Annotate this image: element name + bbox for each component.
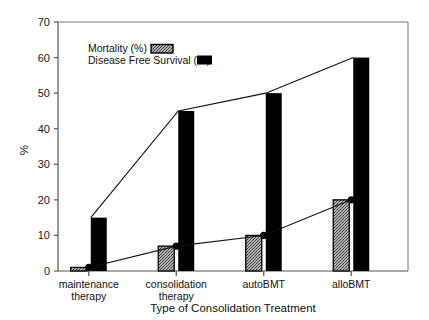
x-tick-label: autoBMT: [242, 278, 285, 290]
marker-mortality: [85, 264, 92, 271]
bar-disease-free-survival: [266, 93, 282, 271]
x-tick-label: therapy: [71, 290, 107, 302]
bar-disease-free-survival: [178, 111, 194, 271]
marker-mortality: [173, 243, 180, 250]
bar-disease-free-survival: [91, 218, 107, 271]
y-tick-label: 10: [38, 229, 50, 241]
bar-disease-free-survival: [353, 58, 369, 271]
x-tick-label: consolidation: [146, 278, 207, 290]
chart-canvas: 010203040506070 maintenancetherapyconsol…: [0, 0, 429, 320]
y-tick-label: 50: [38, 87, 50, 99]
x-tick-label: maintenance: [59, 278, 119, 290]
bar-mortality: [246, 235, 262, 271]
y-tick-label: 70: [38, 16, 50, 28]
bar-mortality: [71, 267, 87, 271]
legend-swatch-mortality: [151, 45, 173, 54]
x-tick-label: therapy: [159, 290, 195, 302]
legend-label-disease-free-survival: Disease Free Survival (%): [88, 54, 210, 66]
y-tick-label: 20: [38, 194, 50, 206]
x-axis-title: Type of Consolidation Treatment: [150, 302, 316, 314]
marker-mortality: [348, 196, 355, 203]
y-tick-label: 30: [38, 158, 50, 170]
y-axis-title: %: [18, 145, 30, 155]
y-tick-label: 40: [38, 123, 50, 135]
y-tick-label: 0: [44, 265, 50, 277]
bar-mortality: [333, 200, 349, 271]
y-tick-label: 60: [38, 52, 50, 64]
legend-swatch-disease-free-survival: [197, 56, 212, 65]
marker-mortality: [260, 232, 267, 239]
legend-label-mortality: Mortality (%): [88, 42, 147, 54]
x-tick-label: alloBMT: [332, 278, 371, 290]
chart-figure: 010203040506070 maintenancetherapyconsol…: [0, 0, 429, 320]
